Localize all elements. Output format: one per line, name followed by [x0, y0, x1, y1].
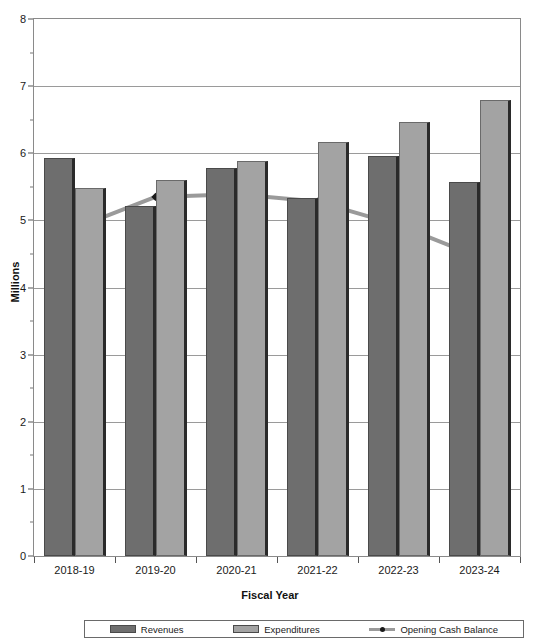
- x-tick-label-2018-19: 2018-19: [54, 564, 94, 576]
- x-axis-title: Fiscal Year: [0, 589, 540, 601]
- bar-revenues-2019-20: [125, 206, 156, 556]
- x-tick-label-2021-22: 2021-22: [297, 564, 337, 576]
- x-tick-label-2020-21: 2020-21: [216, 564, 256, 576]
- x-tick-label-2019-20: 2019-20: [135, 564, 175, 576]
- bar-revenues-2020-21: [206, 168, 237, 556]
- y-tick-label: 7: [20, 80, 26, 92]
- legend-label: Revenues: [141, 624, 184, 635]
- bar-expenditures-2023-24: [480, 100, 511, 556]
- bar-revenues-2023-24: [449, 182, 480, 556]
- legend-item-revenues: Revenues: [110, 624, 184, 635]
- gridline: [34, 422, 520, 423]
- x-tick-mark: [277, 557, 278, 563]
- x-tick-label-2023-24: 2023-24: [459, 564, 499, 576]
- y-axis-title: Millions: [9, 242, 21, 322]
- x-tick-mark: [520, 557, 521, 563]
- chart-container: With Reductions and Bonds 012345678 Mill…: [0, 0, 540, 638]
- gridline: [34, 86, 520, 87]
- y-tick-label: 0: [20, 550, 26, 562]
- bar-revenues-2022-23: [368, 156, 399, 556]
- y-tick-label: 1: [20, 483, 26, 495]
- bar-revenues-2018-19: [44, 158, 75, 556]
- plot-area: [33, 18, 521, 557]
- x-tick-mark: [358, 557, 359, 563]
- legend-swatch-icon: [110, 625, 136, 633]
- gridline: [34, 355, 520, 356]
- y-tick-label: 8: [20, 13, 26, 25]
- bar-expenditures-2021-22: [318, 142, 349, 556]
- bar-expenditures-2019-20: [156, 180, 187, 556]
- gridline: [34, 153, 520, 154]
- legend-label: Opening Cash Balance: [400, 624, 498, 635]
- bar-expenditures-2020-21: [237, 161, 268, 556]
- bar-revenues-2021-22: [287, 198, 318, 556]
- y-tick-label: 2: [20, 416, 26, 428]
- x-tick-mark: [196, 557, 197, 563]
- gridline: [34, 220, 520, 221]
- y-tick-label: 3: [20, 349, 26, 361]
- y-tick-label: 5: [20, 214, 26, 226]
- chart-title: With Reductions and Bonds: [0, 0, 540, 2]
- gridline: [34, 489, 520, 490]
- legend-item-opening-cash-balance: Opening Cash Balance: [369, 624, 498, 635]
- x-tick-mark: [439, 557, 440, 563]
- legend-swatch-icon: [369, 624, 395, 634]
- bar-expenditures-2022-23: [399, 122, 430, 556]
- x-tick-label-2022-23: 2022-23: [378, 564, 418, 576]
- legend-label: Expenditures: [264, 624, 319, 635]
- bar-expenditures-2018-19: [75, 188, 106, 556]
- x-tick-mark: [34, 557, 35, 563]
- x-tick-mark: [115, 557, 116, 563]
- legend-swatch-icon: [233, 625, 259, 633]
- chart-legend: RevenuesExpendituresOpening Cash Balance: [84, 620, 524, 638]
- y-tick-label: 6: [20, 147, 26, 159]
- gridline: [34, 288, 520, 289]
- legend-item-expenditures: Expenditures: [233, 624, 319, 635]
